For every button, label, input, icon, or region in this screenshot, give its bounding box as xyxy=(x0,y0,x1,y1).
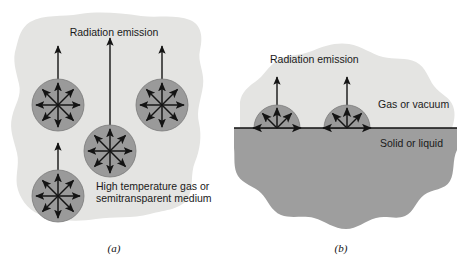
figure-container: Radiation emission High temperature gas … xyxy=(0,0,461,267)
emitter-circle xyxy=(32,79,84,131)
panel-b: Radiation emission Gas or vacuum Solid o… xyxy=(234,43,457,255)
radiation-emission-figure: Radiation emission High temperature gas … xyxy=(0,0,461,267)
emitter-circle xyxy=(84,125,136,177)
radiation-emission-label-b: Radiation emission xyxy=(270,53,359,65)
gas-or-vacuum-label: Gas or vacuum xyxy=(378,98,449,110)
radiation-emission-label-a: Radiation emission xyxy=(70,26,159,38)
medium-label-line1: High temperature gas or xyxy=(96,180,210,192)
panel-caption-a: (a) xyxy=(108,242,121,255)
solid-or-liquid-label: Solid or liquid xyxy=(380,137,443,149)
panel-a: Radiation emission High temperature gas … xyxy=(11,13,212,255)
emitter-circle xyxy=(32,170,84,222)
medium-label-line2: semitransparent medium xyxy=(96,192,212,204)
panel-caption-b: (b) xyxy=(335,242,348,255)
emitter-circle xyxy=(136,79,188,131)
